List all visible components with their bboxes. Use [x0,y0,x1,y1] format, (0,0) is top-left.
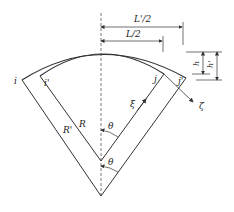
label-i-prime: i' [44,78,49,88]
outer-left-edge [22,80,101,196]
label-theta-outer: θ [108,157,114,167]
label-i: i [14,76,17,86]
label-h-prime: h' [206,61,215,68]
label-xi: ξ [130,99,136,109]
label-j: j [152,74,157,84]
label-l-prime-half: L'/2 [133,14,151,24]
theta-arc-inner [101,130,118,137]
label-zeta: ζ [199,101,205,111]
label-theta-inner: θ [108,121,114,131]
diagram-canvas: L'/2 L/2 h h' ζ ξ i i' j j' R R' θ θ [0,0,234,212]
outer-right-edge [101,78,186,196]
inner-arc [40,54,164,76]
label-l-half: L/2 [125,29,141,39]
inner-right-edge [101,74,164,161]
outer-arc [22,54,186,80]
label-j-prime: j' [176,76,183,86]
xi-axis [137,99,146,111]
label-r-prime: R' [62,125,72,135]
label-h: h [192,61,201,66]
inner-left-edge [40,76,101,161]
label-r: R [78,119,86,129]
